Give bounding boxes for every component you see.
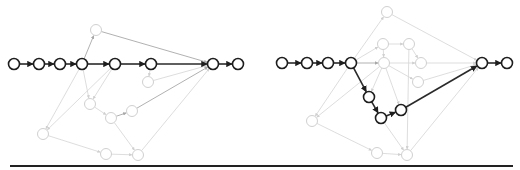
- right-graph-edge-R4-R5: [372, 102, 378, 113]
- left-graph-node-L6: [208, 59, 219, 70]
- right-graph-node-RH: [402, 150, 413, 161]
- left-graph-node-L5: [146, 59, 157, 70]
- left-graph-node-L4: [110, 59, 121, 70]
- left-graph-edge-LC-LG: [114, 122, 134, 150]
- left-graph-edge-LC-LD: [116, 113, 126, 116]
- right-graph-edge-R3-RA: [356, 47, 378, 60]
- diagram-stage: [0, 0, 520, 170]
- left-graph-node-LC: [106, 113, 117, 124]
- right-graph-edge-RG-RH: [382, 153, 401, 154]
- left-graph-node-LD: [127, 106, 138, 117]
- edges-layer: [20, 15, 502, 155]
- graph-comparison-diagram: [0, 0, 520, 170]
- right-graph-node-RT: [382, 7, 393, 18]
- nodes-layer: [9, 7, 513, 161]
- right-graph-node-RG: [372, 148, 383, 159]
- left-graph-node-LA: [143, 77, 154, 88]
- right-graph-edge-RT-R7: [392, 15, 477, 61]
- left-graph-edge-LE-LF: [48, 136, 100, 153]
- right-graph-node-R8: [502, 58, 513, 69]
- left-graph-node-L7: [233, 59, 244, 70]
- left-graph-node-L2: [55, 59, 66, 70]
- left-graph-edge-L4-LE: [47, 68, 111, 130]
- right-graph-node-R3: [346, 58, 357, 69]
- right-graph-node-R2: [323, 58, 334, 69]
- right-graph-edge-R3-R4: [354, 68, 367, 92]
- right-graph-edge-RC-RE: [389, 66, 413, 79]
- right-graph-node-R7: [477, 58, 488, 69]
- right-graph-node-R1: [302, 58, 313, 69]
- right-graph-node-RF: [307, 116, 318, 127]
- right-graph-node-R4: [364, 92, 375, 103]
- left-graph-edge-L4-LB: [93, 69, 112, 99]
- left-graph-node-LG: [133, 150, 144, 161]
- left-graph-node-LT: [91, 25, 102, 36]
- right-graph-node-R0: [277, 58, 288, 69]
- right-graph-node-RC: [379, 58, 390, 69]
- right-graph-edge-RF-RG: [317, 123, 372, 150]
- left-graph-edge-L3-LT: [84, 36, 94, 59]
- right-graph-edge-R5-R6: [386, 112, 395, 116]
- right-graph-node-R5: [376, 113, 387, 124]
- right-graph-edge-R5-RH: [384, 123, 403, 151]
- right-graph-edge-RB-RH: [407, 50, 409, 150]
- right-graph-edge-R3-RF: [315, 68, 348, 116]
- right-graph-node-RB: [404, 39, 415, 50]
- left-graph-node-LE: [38, 129, 49, 140]
- right-graph-edge-RB-RD: [412, 49, 418, 58]
- left-graph-node-L0: [9, 59, 20, 70]
- left-graph-edge-L3-LE: [46, 69, 79, 129]
- left-graph-node-L3: [77, 59, 88, 70]
- left-graph-edge-L5-LA: [149, 69, 150, 76]
- left-graph-edge-LA-L6: [153, 66, 207, 81]
- left-graph-node-LB: [85, 99, 96, 110]
- right-graph-node-RA: [378, 39, 389, 50]
- right-graph-edge-RC-R6: [386, 68, 399, 104]
- right-graph-node-RE: [413, 77, 424, 88]
- left-graph-edge-LF-LG: [112, 154, 133, 155]
- left-graph-edge-LT-L6: [101, 32, 207, 63]
- right-graph-node-RD: [416, 58, 427, 69]
- left-graph-edge-LB-LC: [95, 107, 106, 115]
- right-graph-node-R6: [396, 105, 407, 116]
- right-graph-edge-RE-R7: [423, 65, 476, 81]
- left-graph-node-LF: [101, 149, 112, 160]
- left-graph-node-L1: [34, 59, 45, 70]
